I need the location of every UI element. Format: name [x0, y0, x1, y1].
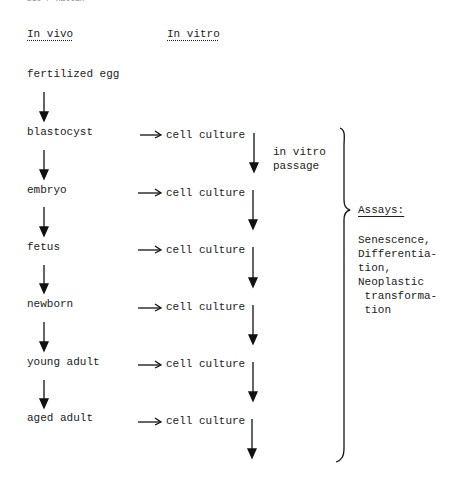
- in-vivo-arrow-6-head: [40, 399, 48, 408]
- in-vivo-arrow-3-head: [40, 227, 48, 236]
- assays-brace: [336, 128, 350, 462]
- in-vivo-arrow-1-head: [40, 112, 48, 121]
- in-vivo-arrow-5-head: [40, 342, 48, 351]
- culture-arrows: [138, 131, 161, 425]
- in-vivo-arrow-2-head: [40, 170, 48, 179]
- diagram-arrows: [0, 0, 462, 485]
- in-vivo-arrow-4-head: [40, 284, 48, 293]
- passage-arrows: [248, 133, 258, 458]
